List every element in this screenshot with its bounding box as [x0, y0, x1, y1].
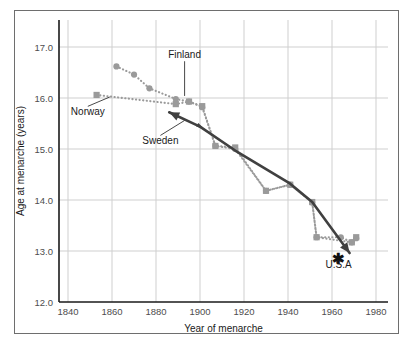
- x-tick-label: 1880: [145, 306, 166, 317]
- annotation-label-sweden: Sweden: [142, 135, 178, 146]
- data-point-marker: [146, 85, 152, 91]
- x-tick-label: 1920: [233, 306, 254, 317]
- data-point-marker: [314, 234, 320, 240]
- data-point-marker: [353, 234, 359, 240]
- annotation-label-usa: U.S.A: [326, 259, 352, 270]
- x-tick-label: 1900: [189, 306, 210, 317]
- annotation-label-finland: Finland: [168, 49, 201, 60]
- data-point-marker: [173, 101, 179, 107]
- y-tick-label: 16.0: [35, 93, 54, 104]
- data-point-marker: [199, 103, 205, 109]
- chart-figure: 1840186018801900192019401960198017.016.0…: [0, 0, 411, 359]
- data-point-marker: [94, 92, 100, 98]
- menarche-age-line-chart: 1840186018801900192019401960198017.016.0…: [0, 0, 411, 359]
- data-point-marker: [113, 63, 119, 69]
- y-tick-label: 12.0: [35, 297, 54, 308]
- x-tick-label: 1840: [57, 306, 78, 317]
- x-tick-label: 1960: [321, 306, 342, 317]
- x-axis-tick-labels: 18401860188019001920194019601980: [57, 306, 386, 317]
- x-axis-title: Year of menarche: [184, 323, 263, 334]
- y-tick-label: 15.0: [35, 144, 54, 155]
- x-tick-label: 1860: [101, 306, 122, 317]
- data-point-marker: [131, 71, 137, 77]
- y-axis-tick-labels: 17.016.015.014.013.012.0: [35, 42, 54, 308]
- data-point-marker: [263, 188, 269, 194]
- y-tick-label: 13.0: [35, 246, 54, 257]
- y-tick-label: 14.0: [35, 195, 54, 206]
- data-point-marker: [186, 98, 192, 104]
- x-tick-label: 1980: [365, 306, 386, 317]
- y-tick-label: 17.0: [35, 42, 54, 53]
- y-axis-title: Age at menarche (years): [15, 106, 26, 216]
- x-tick-label: 1940: [277, 306, 298, 317]
- data-point-marker: [212, 143, 218, 149]
- annotation-label-norway: Norway: [71, 106, 105, 117]
